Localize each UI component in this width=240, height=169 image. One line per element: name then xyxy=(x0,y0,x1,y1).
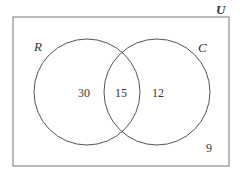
set-r-label: R xyxy=(33,39,42,54)
intersection-value: 15 xyxy=(115,86,127,100)
outside-value: 9 xyxy=(206,141,212,155)
universe-label: U xyxy=(216,2,226,17)
c-only-value: 12 xyxy=(152,86,164,100)
venn-diagram: U R C 30 15 12 9 xyxy=(0,0,240,169)
set-c-label: C xyxy=(198,40,207,55)
r-only-value: 30 xyxy=(78,86,90,100)
